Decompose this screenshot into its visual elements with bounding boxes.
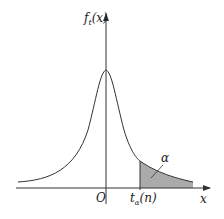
y-axis-label: ft(x) [84,12,108,27]
x-axis-label: x [200,193,207,205]
t-distribution-diagram [0,0,224,219]
origin-label: O [96,192,106,204]
alpha-label: α [161,152,169,164]
quantile-label: tα(n) [130,192,157,207]
